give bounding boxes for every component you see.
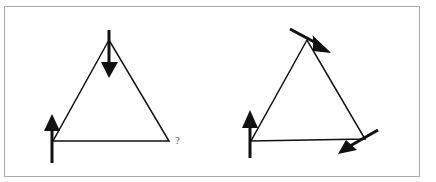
down-left-arrow-icon [338,130,378,154]
left-triangle [53,40,169,141]
diagram-svg [0,0,436,182]
right-triangle [251,40,365,141]
left-panel [44,30,169,163]
down-arrow-icon [101,30,118,78]
down-right-arrow-icon [290,29,331,53]
unknown-label: ? [175,134,180,146]
right-panel [242,29,378,158]
up-arrow-icon [44,114,60,163]
diagram-canvas: ? [0,0,436,182]
